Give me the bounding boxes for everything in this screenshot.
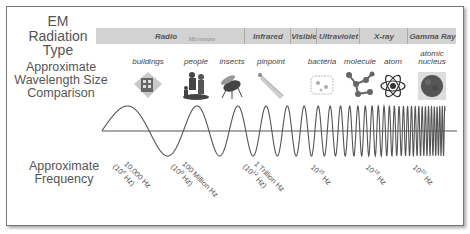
- wave-diagram: [0, 0, 470, 234]
